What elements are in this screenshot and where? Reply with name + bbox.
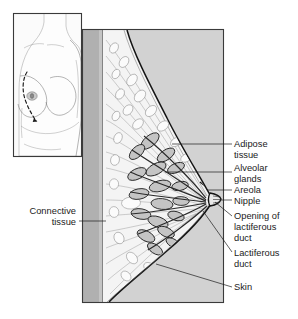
label-lactiferous-duct-line-0: Lactiferous xyxy=(234,248,280,258)
label-connective-tissue-line-1: tissue xyxy=(52,217,76,227)
label-alveolar-glands-line-1: glands xyxy=(234,174,262,184)
label-areola-line-0: Areola xyxy=(234,185,262,195)
anatomical-figure: Connective tissue Adipose tissue Alveola… xyxy=(0,0,298,319)
label-opening-of-lactiferous-duct-line-1: lactiferous xyxy=(234,222,277,232)
label-alveolar-glands-line-0: Alveolar xyxy=(234,163,268,173)
label-adipose-tissue-line-0: Adipose xyxy=(234,139,268,149)
label-skin-line-0: Skin xyxy=(234,282,252,292)
torso-inset xyxy=(14,13,83,157)
label-nipple: Nipple xyxy=(234,196,260,206)
label-skin: Skin xyxy=(234,282,252,292)
label-adipose-tissue-line-1: tissue xyxy=(234,150,258,160)
label-opening-of-lactiferous-duct-line-2: duct xyxy=(234,233,252,243)
label-nipple-line-0: Nipple xyxy=(234,196,260,206)
label-connective-tissue-line-0: Connective xyxy=(29,206,76,216)
label-opening-of-lactiferous-duct-line-0: Opening of xyxy=(234,211,280,221)
label-lactiferous-duct-line-1: duct xyxy=(234,259,252,269)
label-areola: Areola xyxy=(234,185,262,195)
sagittal-section-panel xyxy=(83,30,224,303)
nipple-inset xyxy=(30,94,33,99)
